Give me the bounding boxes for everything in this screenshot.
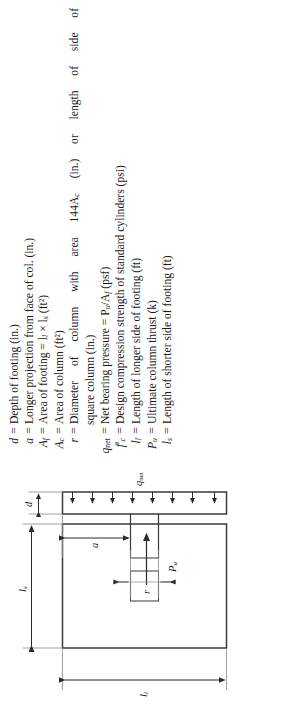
equals-sign: =	[23, 424, 35, 437]
symbol-A-f: Af	[37, 437, 50, 468]
symbol-P-u: Pu	[146, 437, 159, 468]
equals-sign: =	[130, 424, 142, 437]
equals-sign: =	[53, 424, 65, 437]
elevation-column-stem	[130, 514, 158, 558]
definition-r-continued: square column (in.)	[84, 8, 96, 468]
rotated-page-canvas: d = Depth of footing (in.) a = Longer pr…	[0, 0, 285, 714]
symbol-r: r	[68, 437, 80, 468]
symbol-l-l: ll	[130, 437, 143, 468]
equals-sign: =	[37, 424, 49, 437]
definition-l-long: Length of longer side of footing (ft)	[130, 8, 142, 424]
definition-a: Longer projection from face of col. (in.…	[23, 8, 35, 424]
notation-row-fc-prime: f′c = Design compression strength of sta…	[114, 8, 127, 468]
elevation-view-group	[28, 492, 226, 598]
symbol-A-c: Ac	[53, 437, 66, 468]
equals-sign: =	[146, 424, 158, 437]
definition-A-c: Area of column (ft²)	[53, 8, 65, 424]
definition-d: Depth of footing (in.)	[8, 8, 20, 424]
notation-row-r-continued: square column (in.)	[84, 8, 96, 468]
label-a: a	[88, 543, 99, 548]
notation-row-r: r = Diameter of column with area 144Ac (…	[68, 8, 81, 468]
sub-s: s	[41, 316, 50, 319]
symbol-l-s: ls	[161, 437, 174, 468]
notation-row-area-footing: Af = Area of footing = ll × ls (ft²)	[37, 8, 50, 468]
label-r: r	[140, 590, 151, 594]
symbol-a: a	[23, 437, 35, 468]
notation-row-a: a = Longer projection from face of col. …	[23, 8, 35, 468]
symbol-fc-prime: f′c	[114, 437, 127, 468]
plan-footing-outline	[62, 524, 226, 648]
definition-r: Diameter of column with area 144Ac (in.)…	[68, 8, 81, 424]
notation-list: d = Depth of footing (in.) a = Longer pr…	[8, 8, 278, 468]
definition-A-f: Area of footing = ll × ls (ft²)	[37, 8, 50, 424]
notation-row-p-u: Pu = Ultimate column thrust (k)	[146, 8, 159, 468]
equals-sign: =	[68, 424, 80, 437]
notation-row-d: d = Depth of footing (in.)	[8, 8, 20, 468]
notation-row-q-net: qnet = Net bearing pressure = Pu/Af (psf…	[99, 8, 112, 468]
sub-c: c	[72, 193, 81, 197]
pressure-arrow-group	[72, 492, 214, 503]
label-d: d	[22, 502, 33, 507]
notation-row-l-long: ll = Length of longer side of footing (f…	[130, 8, 143, 468]
definition-l-short: Length of shorter side of footing (ft)	[161, 8, 173, 424]
notation-row-area-column: Ac = Area of column (ft²)	[53, 8, 66, 468]
equals-sign: =	[114, 424, 126, 437]
plan-column-outline	[130, 571, 158, 601]
equals-sign: =	[99, 424, 111, 437]
label-qnet: qnet	[132, 472, 144, 486]
label-Pu: Pu	[166, 562, 178, 572]
label-ls: ls	[16, 586, 28, 592]
sub-u: u	[102, 305, 111, 309]
definition-fc-prime: Design compression strength of standard …	[114, 8, 126, 424]
sub-l: l	[41, 335, 50, 337]
definition-p-u: Ultimate column thrust (k)	[146, 8, 158, 424]
symbol-d: d	[8, 437, 20, 468]
symbol-q-net: qnet	[99, 437, 112, 468]
prime-mark: ′	[113, 442, 126, 445]
label-ll: ll	[137, 692, 149, 697]
equals-sign: =	[161, 424, 173, 437]
elevation-footing-slab	[62, 492, 226, 514]
definition-q-net: Net bearing pressure = Pu/Af (psf)	[99, 8, 112, 424]
equals-sign: =	[8, 424, 20, 437]
footing-figure: ls ll a r d Pu qnet	[0, 468, 285, 710]
notation-row-l-short: ls = Length of shorter side of footing (…	[161, 8, 174, 468]
plan-view-group	[22, 524, 226, 690]
